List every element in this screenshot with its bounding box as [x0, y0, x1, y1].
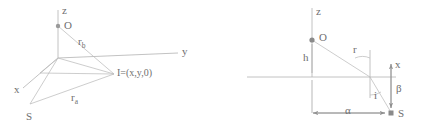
left-ground-edge-a [40, 58, 58, 73]
left-ra-subscript: a [75, 97, 78, 106]
left-x-axis-label: x [14, 84, 20, 95]
right-origin-marker [309, 37, 314, 42]
left-axes-group [23, 10, 178, 88]
left-z-axis-label: z [62, 5, 67, 16]
right-r-label: r [353, 44, 357, 55]
left-S-to-origin-segment [30, 58, 58, 104]
right-h-label: h [303, 52, 309, 63]
left-image-point-label: I=(x,y,0) [117, 68, 152, 78]
left-rb-segment [58, 26, 114, 74]
left-source-label: S [26, 111, 32, 122]
left-origin-label: O [64, 20, 72, 31]
left-y-axis [58, 53, 178, 58]
left-origin-marker [56, 24, 60, 28]
left-y-axis-label: y [182, 46, 188, 57]
right-z-axis-label: z [316, 6, 321, 17]
right-origin-label: O [319, 32, 327, 43]
left-origin-to-I-segment [58, 58, 114, 74]
right-alpha-label: α [345, 105, 351, 116]
right-incidence-angle-label: i [374, 90, 377, 101]
right-beta-label: β [396, 83, 402, 94]
left-rb-subscript: b [82, 41, 86, 50]
figure-canvas: z O y x rb I=(x,y,0) ra S z O h r x i β … [0, 0, 427, 132]
right-r-segment [312, 40, 370, 77]
right-source-label: S [398, 108, 404, 119]
right-x-axis-label: x [395, 59, 401, 70]
right-source-marker [389, 111, 394, 116]
right-r-angle-arc [355, 56, 370, 58]
left-ra-label: ra [71, 92, 78, 106]
left-rb-label: rb [78, 36, 85, 50]
left-ground-edge-b [40, 73, 114, 74]
right-axes-group [247, 8, 396, 98]
